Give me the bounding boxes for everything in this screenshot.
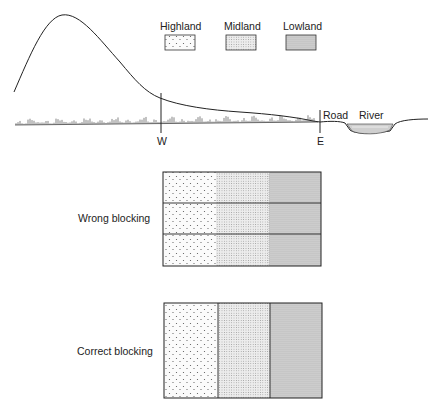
east-marker-label: E xyxy=(317,135,324,147)
legend-label-lowland: Lowland xyxy=(283,20,322,32)
west-marker-label: W xyxy=(157,135,167,147)
river-label: River xyxy=(359,109,384,121)
legend-label-midland: Midland xyxy=(224,20,261,32)
wrong-blocking-label: Wrong blocking xyxy=(78,212,150,224)
diagram-canvas xyxy=(0,0,443,408)
wrong-blocking-grid xyxy=(163,172,321,266)
legend-label-highland: Highland xyxy=(160,20,201,32)
road-label: Road xyxy=(323,109,348,121)
correct-blocking-grid xyxy=(164,303,322,398)
legend-swatch-highland xyxy=(165,35,195,50)
vegetation-ground-line xyxy=(15,122,318,125)
legend-swatch-lowland xyxy=(286,35,316,50)
correct-blocking-label: Correct blocking xyxy=(77,345,153,357)
legend-swatch-midland xyxy=(226,35,256,50)
